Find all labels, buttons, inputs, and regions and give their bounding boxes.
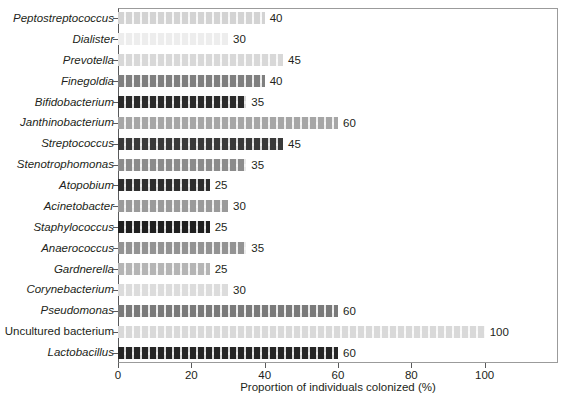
bar-value-label: 30: [233, 281, 246, 299]
bar-value-label: 35: [251, 156, 264, 174]
bar: [118, 179, 210, 191]
bar-row: Acinetobacter30: [0, 196, 570, 217]
bar-row: Staphylococcus25: [0, 217, 570, 238]
bar-value-label: 35: [251, 239, 264, 257]
bar: [118, 263, 210, 275]
x-axis-tick: [411, 363, 412, 368]
bar: [118, 12, 265, 24]
bar-row: Peptostreptococcus40: [0, 8, 570, 29]
bar-category-label: Janthinobacterium: [0, 112, 114, 133]
bar: [118, 221, 210, 233]
bar: [118, 326, 485, 338]
bar-value-label: 40: [270, 9, 283, 27]
bar-row: Finegoldia40: [0, 71, 570, 92]
bar-value-label: 30: [233, 197, 246, 215]
bar-value-label: 100: [490, 323, 509, 341]
bar-row: Atopobium25: [0, 175, 570, 196]
bar-value-label: 25: [215, 176, 228, 194]
bar: [118, 33, 228, 45]
bar-row: Bifidobacterium35: [0, 92, 570, 113]
bar-row: Streptococcus45: [0, 133, 570, 154]
bar-value-label: 25: [215, 260, 228, 278]
bar: [118, 117, 338, 129]
bar: [118, 305, 338, 317]
bar-row: Pseudomonas60: [0, 300, 570, 321]
bar-value-label: 25: [215, 218, 228, 236]
bar-category-label: Stenotrophomonas: [0, 154, 114, 175]
bar-value-label: 60: [343, 114, 356, 132]
bar-row: Uncultured bacterium100: [0, 321, 570, 342]
bar-category-label: Corynebacterium: [0, 279, 114, 300]
bar-category-label: Finegoldia: [0, 71, 114, 92]
x-axis-tick: [118, 363, 119, 368]
bar: [118, 138, 283, 150]
bar-value-label: 30: [233, 30, 246, 48]
bar-category-label: Lactobacillus: [0, 342, 114, 363]
bar-row: Janthinobacterium60: [0, 112, 570, 133]
x-axis-tick-label: 20: [171, 369, 211, 381]
bar: [118, 347, 338, 359]
bar: [118, 159, 246, 171]
x-axis-tick: [338, 363, 339, 368]
bar-category-label: Pseudomonas: [0, 300, 114, 321]
bar-row: Gardnerella25: [0, 259, 570, 280]
bar-category-label: Acinetobacter: [0, 196, 114, 217]
x-axis-tick-label: 100: [465, 369, 505, 381]
bar-category-label: Bifidobacterium: [0, 92, 114, 113]
x-axis-title: Proportion of individuals colonized (%): [118, 381, 558, 393]
x-axis-tick: [265, 363, 266, 368]
bar: [118, 200, 228, 212]
bar-value-label: 60: [343, 302, 356, 320]
bar-row: Anaerococcus35: [0, 238, 570, 259]
bar-category-label: Uncultured bacterium: [0, 321, 114, 342]
bar-value-label: 60: [343, 344, 356, 362]
bar-category-label: Anaerococcus: [0, 238, 114, 259]
figure-bar-chart: Peptostreptococcus40Dialister30Prevotell…: [0, 0, 570, 400]
bar-category-label: Dialister: [0, 29, 114, 50]
bar-value-label: 40: [270, 72, 283, 90]
bar-row: Lactobacillus60: [0, 342, 570, 363]
bar-value-label: 45: [288, 51, 301, 69]
bar-category-label: Prevotella: [0, 50, 114, 71]
bar-value-label: 35: [251, 93, 264, 111]
bar-row: Corynebacterium30: [0, 279, 570, 300]
bar: [118, 75, 265, 87]
bar-rows-container: Peptostreptococcus40Dialister30Prevotell…: [0, 8, 570, 363]
bar-row: Prevotella45: [0, 50, 570, 71]
bar-category-label: Staphylococcus: [0, 217, 114, 238]
bar-row: Stenotrophomonas35: [0, 154, 570, 175]
x-axis-tick-label: 80: [391, 369, 431, 381]
bar-category-label: Gardnerella: [0, 259, 114, 280]
x-axis-tick-label: 40: [245, 369, 285, 381]
x-axis-tick: [485, 363, 486, 368]
bar: [118, 96, 246, 108]
caption-sliver: [8, 393, 308, 400]
x-axis-tick-label: 0: [98, 369, 138, 381]
bar-category-label: Atopobium: [0, 175, 114, 196]
bar: [118, 242, 246, 254]
bar-category-label: Streptococcus: [0, 133, 114, 154]
bar-row: Dialister30: [0, 29, 570, 50]
bar-value-label: 45: [288, 135, 301, 153]
x-axis-tick-label: 60: [318, 369, 358, 381]
bar-category-label: Peptostreptococcus: [0, 8, 114, 29]
bar: [118, 54, 283, 66]
x-axis-tick: [191, 363, 192, 368]
bar: [118, 284, 228, 296]
